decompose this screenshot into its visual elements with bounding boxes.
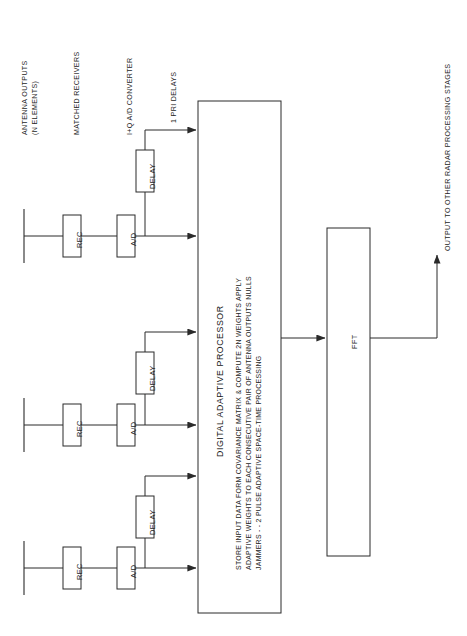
- stage-label-antenna-outputs: ANTENNA OUTPUTS (N ELEMENTS): [21, 60, 40, 135]
- rec-block-1[interactable]: [63, 215, 81, 257]
- stage-label-iq-ad-converter-line-1: I+Q A/D CONVERTER: [126, 58, 134, 135]
- stage-label-iq-ad-converter: I+Q A/D CONVERTER: [126, 58, 134, 135]
- stage-label-antenna-outputs-line-2: (N ELEMENTS): [31, 60, 41, 135]
- stage-label-antenna-outputs-line-1: ANTENNA OUTPUTS: [21, 60, 31, 135]
- delay-block-2[interactable]: [136, 352, 154, 394]
- output-label: OUTPUT TO OTHER RADAR PROCESSING STAGES: [444, 64, 452, 251]
- fft-block[interactable]: [327, 228, 370, 556]
- digital-adaptive-processor[interactable]: [198, 101, 281, 613]
- ad-block-1[interactable]: [117, 215, 135, 257]
- stage-label-matched-receivers-line-1: MATCHED RECEIVERS: [73, 52, 81, 135]
- ad-block-3[interactable]: [117, 547, 135, 589]
- stage-label-one-pri-delays: 1 PRI DELAYS: [170, 72, 178, 123]
- rec-block-3[interactable]: [63, 547, 81, 589]
- stage-label-matched-receivers: MATCHED RECEIVERS: [73, 52, 81, 135]
- stage-label-one-pri-delays-line-1: 1 PRI DELAYS: [170, 72, 178, 123]
- delay-block-3[interactable]: [136, 496, 154, 538]
- delay-block-1[interactable]: [136, 150, 154, 192]
- rec-block-2[interactable]: [63, 404, 81, 446]
- ad-block-2[interactable]: [117, 404, 135, 446]
